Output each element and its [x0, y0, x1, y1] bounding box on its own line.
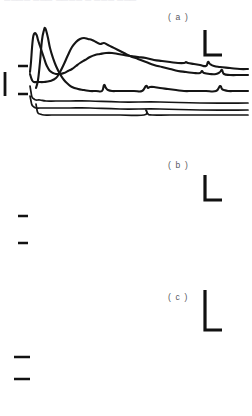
panel-b-plot: [0, 140, 252, 265]
figure-container: ▁▁▁▁ ▁▁▁ ▁▁▁▁ ▁ ▁▁▁ ▁▁▁ ( a ) ( b ) ( c …: [0, 0, 252, 416]
panel-c: ( c ): [0, 265, 252, 416]
panel-c-scale-bar: [205, 290, 222, 330]
panel-a-baseline-markers: [18, 66, 28, 94]
panel-a-plot: [0, 0, 252, 140]
panel-c-baseline-markers: [14, 357, 30, 379]
panel-c-plot: [0, 265, 252, 416]
panel-a-stimulus-trace: [30, 86, 248, 103]
panel-a-scale-bar: [205, 30, 222, 55]
panel-b: ( b ): [0, 140, 252, 265]
panel-b-baseline-markers: [18, 216, 28, 243]
panel-b-scale-bar: [205, 175, 222, 200]
panel-a: ( a ): [0, 0, 252, 140]
